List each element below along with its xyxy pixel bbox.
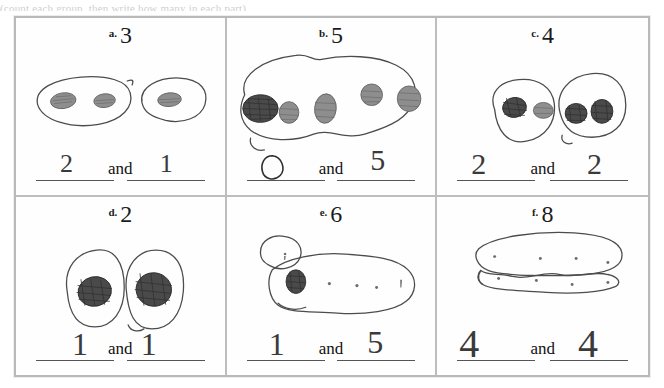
answer-row-c: 2 and 2 [445, 145, 640, 185]
answer-conjunction-b: and [319, 159, 344, 179]
worksheet-cell-c[interactable]: c.4 2 and 2 [437, 18, 648, 197]
worksheet-frame: a.3 2 and 1 [14, 16, 650, 377]
worksheet-cell-f[interactable]: f.8 4 and 4 [437, 197, 648, 376]
answer-blank-left-c[interactable] [457, 180, 535, 181]
worksheet-cell-e[interactable]: e.6 1 and [227, 197, 438, 376]
answer-value-right-a: 1 [160, 149, 173, 179]
answer-value-left-e: 1 [269, 326, 285, 363]
answer-conjunction-f: and [530, 339, 555, 359]
answer-conjunction-d: and [108, 339, 133, 359]
answer-value-right-f: 4 [578, 320, 598, 367]
worksheet-cell-d[interactable]: d.2 1 and 1 [16, 197, 227, 376]
answer-value-right-b: 5 [370, 143, 385, 177]
answer-blank-right-b[interactable] [337, 180, 415, 181]
answer-blank-right-d[interactable] [127, 360, 205, 361]
answer-value-left-b: 0 [265, 149, 278, 179]
answer-row-b: 0 and 5 [235, 145, 428, 185]
answer-blank-left-b[interactable] [247, 180, 325, 181]
answer-row-f: 4 and 4 [445, 325, 640, 365]
answer-value-left-a: 2 [60, 149, 73, 179]
answer-row-e: 1 and 5 [235, 325, 428, 365]
answer-conjunction-a: and [108, 159, 133, 179]
answer-value-left-c: 2 [471, 147, 486, 181]
answer-blank-left-e[interactable] [247, 360, 325, 361]
cut-off-header-text: (count each group, then write how many i… [0, 0, 664, 11]
answer-conjunction-e: and [319, 339, 344, 359]
answer-row-d: 1 and 1 [24, 325, 217, 365]
answer-conjunction-c: and [530, 159, 555, 179]
answer-value-right-d: 1 [141, 326, 157, 363]
answer-value-right-e: 5 [367, 324, 383, 361]
answer-blank-right-a[interactable] [127, 180, 205, 181]
answer-blank-left-a[interactable] [36, 180, 114, 181]
worksheet-cell-b[interactable]: b.5 [227, 18, 438, 197]
answer-value-left-f: 4 [459, 320, 479, 367]
answer-value-right-c: 2 [587, 147, 602, 181]
answer-row-a: 2 and 1 [24, 145, 217, 185]
answer-value-left-d: 1 [72, 326, 88, 363]
worksheet-cell-a[interactable]: a.3 2 and 1 [16, 18, 227, 197]
worksheet-grid: a.3 2 and 1 [16, 18, 648, 375]
